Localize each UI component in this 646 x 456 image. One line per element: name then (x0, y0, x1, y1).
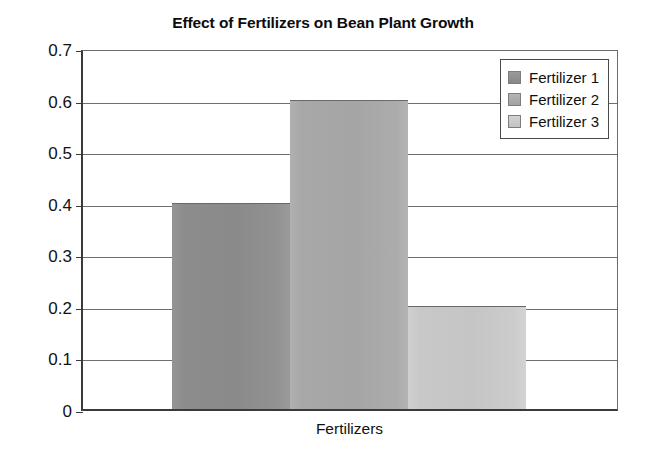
y-axis-tick-label: 0.2 (48, 299, 72, 319)
x-axis-label: Fertilizers (81, 420, 618, 438)
y-axis-tick (76, 309, 83, 310)
legend: Fertilizer 1Fertilizer 2Fertilizer 3 (500, 59, 609, 139)
legend-item-label: Fertilizer 3 (529, 113, 599, 130)
legend-swatch-icon (508, 71, 521, 84)
y-axis-tick-label: 0.1 (48, 350, 72, 370)
legend-item-label: Fertilizer 1 (529, 69, 599, 86)
bar-3 (408, 306, 526, 409)
y-axis-tick-label: 0.5 (48, 144, 72, 164)
y-axis-tick-label: 0.4 (48, 196, 72, 216)
legend-swatch-icon (508, 93, 521, 106)
plot-area: 0.70.60.50.40.30.20.10 Fertilizer 1Ferti… (81, 50, 618, 411)
legend-swatch-icon (508, 115, 521, 128)
y-axis-tick-label: 0.3 (48, 247, 72, 267)
chart-title: Effect of Fertilizers on Bean Plant Grow… (0, 14, 646, 32)
y-axis-tick (76, 51, 83, 52)
bar-1 (172, 203, 290, 409)
legend-item: Fertilizer 2 (508, 88, 599, 110)
legend-item: Fertilizer 1 (508, 66, 599, 88)
y-axis-tick (76, 103, 83, 104)
y-axis-tick-label: 0.7 (48, 41, 72, 61)
legend-item: Fertilizer 3 (508, 110, 599, 132)
y-axis-tick (76, 412, 83, 413)
bar-chart: Effect of Fertilizers on Bean Plant Grow… (0, 0, 646, 456)
y-axis-tick (76, 206, 83, 207)
legend-item-label: Fertilizer 2 (529, 91, 599, 108)
y-axis-tick-label: 0.6 (48, 93, 72, 113)
y-axis-tick (76, 257, 83, 258)
bar-2 (290, 100, 408, 409)
y-axis-tick (76, 360, 83, 361)
y-axis-tick (76, 154, 83, 155)
y-axis-tick-label: 0 (63, 402, 72, 422)
